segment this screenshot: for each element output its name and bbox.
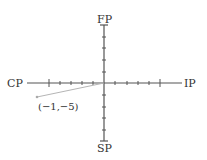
label-cp: CP bbox=[7, 78, 23, 89]
vector-line bbox=[37, 83, 104, 97]
point-marker bbox=[36, 96, 39, 99]
label-ip: IP bbox=[184, 78, 196, 89]
point-label: (−1,−5) bbox=[38, 102, 78, 112]
label-fp: FP bbox=[97, 14, 112, 25]
label-sp: SP bbox=[97, 143, 112, 154]
